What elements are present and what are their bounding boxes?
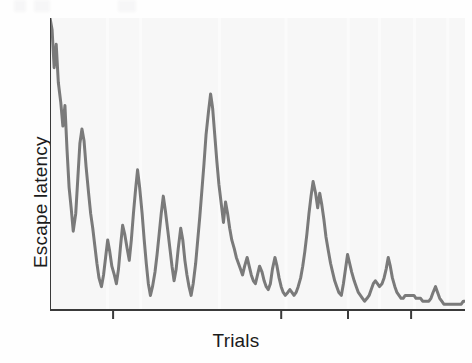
grid-line: [285, 18, 288, 310]
grid-line: [139, 18, 142, 310]
plot-area: [50, 18, 465, 310]
page-artifact-smudge: [0, 0, 472, 12]
grid-line: [106, 18, 109, 310]
x-axis-ticks: [113, 310, 411, 319]
x-axis-label: Trials: [0, 330, 472, 352]
grid-line: [446, 18, 449, 310]
line-chart-svg: [50, 18, 465, 320]
grid-line: [378, 18, 381, 310]
figure-escape-latency-chart: Escape latency Trials: [0, 0, 472, 363]
grid-line: [413, 18, 416, 310]
